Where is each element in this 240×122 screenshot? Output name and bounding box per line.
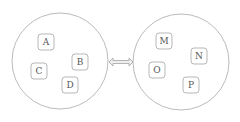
node-p: P bbox=[183, 77, 199, 93]
node-label: C bbox=[36, 66, 43, 76]
node-label: N bbox=[195, 51, 203, 61]
node-a: A bbox=[38, 34, 54, 50]
left-group-nodes: ABCD bbox=[31, 34, 88, 93]
node-label: O bbox=[153, 65, 160, 75]
node-label: D bbox=[66, 80, 73, 90]
node-o: O bbox=[149, 62, 165, 78]
node-label: P bbox=[188, 80, 194, 90]
node-label: A bbox=[42, 37, 50, 47]
node-label: M bbox=[159, 36, 168, 46]
right-group-nodes: MNOP bbox=[149, 33, 207, 93]
right-group-circle bbox=[133, 14, 229, 110]
diagram-canvas: ABCD MNOP bbox=[0, 0, 240, 122]
node-b: B bbox=[72, 54, 88, 70]
left-group-circle bbox=[12, 13, 108, 109]
node-n: N bbox=[191, 48, 207, 64]
node-c: C bbox=[31, 63, 47, 79]
double-arrow-icon bbox=[109, 58, 133, 66]
node-d: D bbox=[62, 77, 78, 93]
node-m: M bbox=[156, 33, 172, 49]
node-label: B bbox=[77, 57, 84, 67]
